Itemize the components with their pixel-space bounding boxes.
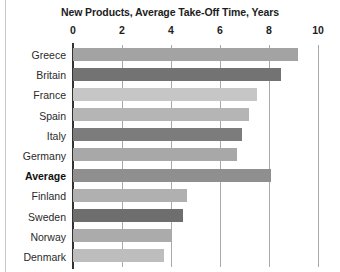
x-tick-label-8: 8 — [266, 24, 272, 36]
bar-row — [73, 247, 318, 267]
bar-row — [73, 65, 318, 85]
bar-average — [73, 169, 271, 182]
bar-greece — [73, 48, 298, 61]
bar-row — [73, 146, 318, 166]
category-label-greece: Greece — [32, 49, 66, 61]
category-row: Britain — [0, 65, 70, 85]
bar-denmark — [73, 249, 164, 262]
bar-britain — [73, 68, 281, 81]
bar-row — [73, 85, 318, 105]
bar-germany — [73, 148, 237, 161]
category-row: France — [0, 85, 70, 105]
bar-row — [73, 186, 318, 206]
y-axis-category-labels: GreeceBritainFranceSpainItalyGermanyAver… — [0, 45, 70, 267]
bar-row — [73, 126, 318, 146]
x-tick-label-10: 10 — [312, 24, 324, 36]
category-label-average: Average — [25, 170, 66, 182]
category-row: Germany — [0, 146, 70, 166]
category-label-spain: Spain — [39, 110, 66, 122]
bar-row — [73, 207, 318, 227]
category-row: Finland — [0, 186, 70, 206]
bar-sweden — [73, 209, 183, 222]
bar-finland — [73, 189, 187, 202]
bar-row — [73, 45, 318, 65]
category-label-finland: Finland — [32, 190, 66, 202]
bar-row — [73, 227, 318, 247]
category-row: Sweden — [0, 207, 70, 227]
category-label-italy: Italy — [47, 130, 66, 142]
category-row: Average — [0, 166, 70, 186]
category-row: Spain — [0, 106, 70, 126]
plot-area — [73, 45, 318, 267]
category-row: Norway — [0, 227, 70, 247]
bar-rows — [73, 45, 318, 267]
x-tick-label-0: 0 — [70, 24, 76, 36]
category-label-germany: Germany — [23, 150, 66, 162]
category-label-sweden: Sweden — [28, 211, 66, 223]
category-row: Italy — [0, 126, 70, 146]
bar-spain — [73, 108, 249, 121]
category-row: Denmark — [0, 247, 70, 267]
category-label-denmark: Denmark — [23, 251, 66, 263]
bar-france — [73, 88, 257, 101]
x-tick-label-4: 4 — [168, 24, 174, 36]
bar-row — [73, 106, 318, 126]
category-row: Greece — [0, 45, 70, 65]
category-label-norway: Norway — [30, 231, 66, 243]
category-label-britain: Britain — [36, 69, 66, 81]
bar-norway — [73, 229, 171, 242]
x-tick-label-2: 2 — [119, 24, 125, 36]
bar-row — [73, 166, 318, 186]
x-axis-tick-labels: 0246810 — [0, 24, 340, 38]
gridline-10 — [318, 45, 319, 267]
chart-container: New Products, Average Take-Off Time, Yea… — [0, 0, 340, 272]
bar-italy — [73, 128, 242, 141]
category-label-france: France — [33, 89, 66, 101]
x-tick-label-6: 6 — [217, 24, 223, 36]
chart-title: New Products, Average Take-Off Time, Yea… — [0, 6, 340, 18]
